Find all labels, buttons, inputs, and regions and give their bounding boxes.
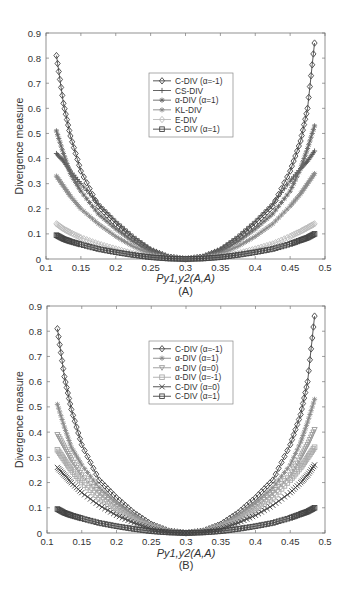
chart-b-x-tick-label: 0.15: [73, 536, 92, 547]
chart-b-legend-label-2: α-DIV (α=0): [175, 363, 219, 373]
chart-a-legend: C-DIV (α=-1)CS-DIVα-DIV (α=1)KL-DIVE-DIV…: [149, 73, 233, 137]
star-marker-icon: [285, 192, 290, 197]
chart-a-y-tick-label: 0: [36, 254, 41, 265]
chart-b-legend-label-4: C-DIV (α=0): [175, 382, 220, 392]
star-marker-icon: [88, 474, 93, 479]
chart-a-legend-label-1: CS-DIV: [175, 86, 204, 96]
star-marker-icon: [279, 200, 284, 205]
chart-b-y-tick-label: 0.8: [29, 326, 42, 337]
chart-b-panel-label: (B): [179, 559, 194, 571]
star-marker-icon: [90, 204, 95, 209]
chart-b-y-tick-label: 0.7: [29, 351, 42, 362]
chart-b-x-tick-label: 0.3: [179, 536, 192, 547]
chart-a-x-tick-label: 0.15: [72, 262, 91, 273]
chart-a-plot: 0.10.150.20.250.30.350.40.450.500.10.20.…: [0, 0, 348, 300]
chart-a-y-tick-label: 0.6: [28, 103, 41, 114]
chart-b-y-tick-label: 0.2: [29, 477, 42, 488]
chart-a-y-tick-label: 0.1: [28, 228, 41, 239]
chart-b: 0.10.150.20.250.30.350.40.450.500.10.20.…: [0, 273, 348, 601]
chart-a-y-tick-label: 0.2: [28, 203, 41, 214]
star-marker-icon: [305, 419, 310, 424]
chart-b-x-axis-label: Py1,y2(A,A): [157, 547, 216, 559]
chart-b-x-tick-label: 0.25: [142, 536, 161, 547]
chart-a-y-tick-label: 0.5: [28, 128, 41, 139]
chart-a-x-tick-label: 0.2: [109, 262, 122, 273]
star-marker-icon: [305, 146, 310, 151]
chart-b-legend-label-0: C-DIV (α=-1): [175, 344, 223, 354]
chart-b-y-tick-label: 0: [37, 528, 42, 539]
star-marker-icon: [310, 131, 315, 136]
chart-a: 0.10.150.20.250.30.350.40.450.500.10.20.…: [0, 0, 348, 300]
chart-b-x-tick-label: 0.4: [249, 536, 262, 547]
chart-b-y-tick-label: 0.1: [29, 502, 42, 513]
chart-a-x-tick-label: 0.4: [249, 262, 262, 273]
chart-b-y-tick-label: 0.6: [29, 376, 42, 387]
chart-a-y-axis-label: Divergence measure: [13, 97, 25, 194]
star-marker-icon: [78, 189, 83, 194]
chart-b-x-tick-label: 0.35: [212, 536, 231, 547]
chart-b-legend-label-5: C-DIV (α=1): [175, 391, 220, 401]
chart-a-x-tick-label: 0.5: [318, 262, 331, 273]
chart-b-x-tick-label: 0.1: [40, 536, 53, 547]
chart-a-legend-label-5: C-DIV (α=1): [175, 124, 220, 134]
star-marker-icon: [93, 207, 98, 212]
chart-b-legend-label-1: α-DIV (α=1): [175, 353, 219, 363]
chart-b-y-tick-label: 0.3: [29, 452, 42, 463]
star-marker-icon: [276, 204, 281, 209]
chart-b-y-axis-label: Divergence measure: [13, 371, 25, 468]
chart-a-legend-label-0: C-DIV (α=-1): [175, 76, 223, 86]
chart-a-y-tick-label: 0.3: [28, 178, 41, 189]
star-marker-icon: [87, 200, 92, 205]
chart-a-legend-label-2: α-DIV (α=1): [175, 95, 219, 105]
chart-a-y-tick-label: 0.7: [28, 78, 41, 89]
star-marker-icon: [55, 132, 60, 137]
chart-b-plot: 0.10.150.20.250.30.350.40.450.500.10.20.…: [0, 273, 348, 601]
chart-b-x-tick-label: 0.5: [318, 536, 331, 547]
chart-b-plot-area: [47, 306, 325, 533]
chart-a-y-tick-label: 0.8: [28, 53, 41, 64]
star-marker-icon: [279, 474, 284, 479]
star-marker-icon: [282, 196, 287, 201]
chart-a-x-tick-label: 0.1: [39, 262, 52, 273]
chart-a-legend-label-3: KL-DIV: [175, 105, 202, 115]
chart-b-x-tick-label: 0.45: [281, 536, 300, 547]
chart-a-y-tick-label: 0.9: [28, 28, 41, 39]
star-marker-icon: [81, 192, 86, 197]
chart-b-y-tick-label: 0.9: [29, 301, 42, 312]
star-marker-icon: [282, 470, 287, 475]
chart-b-legend-label-3: α-DIV (α=-1): [175, 372, 221, 382]
chart-b-y-tick-label: 0.4: [29, 427, 42, 438]
star-marker-icon: [307, 138, 312, 143]
chart-a-plot-area: [46, 33, 325, 259]
star-marker-icon: [270, 211, 275, 216]
chart-a-y-tick-label: 0.4: [28, 153, 41, 164]
star-marker-icon: [273, 207, 278, 212]
chart-b-y-tick-label: 0.5: [29, 401, 42, 412]
star-marker-icon: [84, 196, 89, 201]
chart-b-legend: C-DIV (α=-1)α-DIV (α=1)α-DIV (α=0)α-DIV …: [149, 341, 233, 404]
chart-a-x-tick-label: 0.45: [281, 262, 300, 273]
star-marker-icon: [307, 412, 312, 417]
star-marker-icon: [308, 135, 313, 140]
chart-b-x-tick-label: 0.2: [110, 536, 123, 547]
chart-a-legend-label-4: E-DIV: [175, 115, 198, 125]
